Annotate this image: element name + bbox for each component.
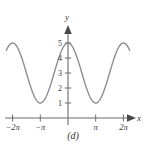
y-tick-label-2: 2 [58,84,62,93]
y-tick-label-4: 4 [58,54,62,63]
y-axis-arrow-icon [64,25,72,34]
y-tick-label-5: 5 [58,39,62,48]
figure-container: y x −2π −π π 2π 1 2 3 4 5 (d) [0,0,146,152]
x-axis-label: x [136,113,141,123]
y-axis-label: y [64,12,69,22]
y-tick-label-1: 1 [58,99,62,108]
y-tick-label-3: 3 [58,69,62,78]
figure-caption: (d) [0,130,146,141]
x-axis-arrow-icon [127,114,136,122]
